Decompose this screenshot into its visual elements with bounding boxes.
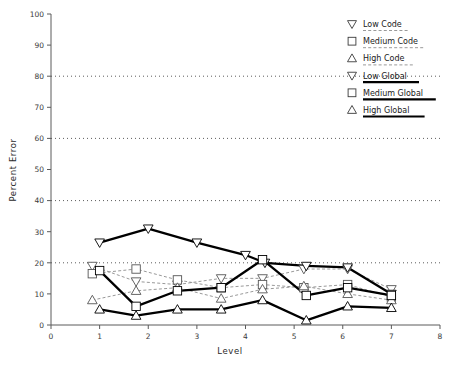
marker-square: [387, 291, 395, 299]
x-tick-label-3: 3: [194, 332, 199, 341]
x-tick-label-4: 4: [243, 332, 248, 341]
marker-square: [173, 287, 181, 295]
x-tick-label-7: 7: [389, 332, 394, 341]
marker-square: [348, 37, 356, 45]
y-tick-label-30: 30: [34, 228, 44, 237]
marker-square: [343, 283, 351, 291]
marker-square: [348, 89, 356, 97]
y-tick-label-60: 60: [34, 134, 44, 143]
y-tick-label-0: 0: [39, 321, 44, 330]
legend-label: High Code: [363, 54, 404, 63]
y-tick-label-70: 70: [34, 103, 44, 112]
x-axis-title: Level: [217, 346, 242, 356]
y-tick-label-10: 10: [34, 290, 44, 299]
x-tick-label-1: 1: [97, 332, 102, 341]
x-tick-label-2: 2: [146, 332, 151, 341]
marker-square: [132, 302, 140, 310]
legend-label: Medium Global: [363, 89, 423, 98]
x-tick-label-0: 0: [49, 332, 54, 341]
chart-container: 0102030405060708090100 012345678 Level P…: [0, 0, 456, 367]
y-tick-label-100: 100: [30, 10, 45, 19]
y-tick-label-90: 90: [34, 41, 44, 50]
y-tick-label-40: 40: [34, 196, 44, 205]
marker-square: [132, 265, 140, 273]
y-tick-label-20: 20: [34, 259, 44, 268]
marker-square: [302, 291, 310, 299]
marker-square: [258, 255, 266, 263]
legend-label: Low Global: [363, 72, 407, 81]
legend-label: High Global: [363, 106, 409, 115]
y-axis-title: Percent Error: [8, 138, 18, 201]
marker-square: [217, 283, 225, 291]
x-tick-label-6: 6: [340, 332, 345, 341]
legend-label: Medium Code: [363, 37, 418, 46]
y-tick-label-80: 80: [34, 72, 44, 81]
x-tick-label-8: 8: [438, 332, 443, 341]
legend-label: Low Code: [363, 20, 402, 29]
x-tick-label-5: 5: [292, 332, 297, 341]
marker-square: [95, 266, 103, 274]
percent-error-line-chart: 0102030405060708090100 012345678 Level P…: [0, 0, 456, 367]
y-tick-label-50: 50: [34, 165, 44, 174]
